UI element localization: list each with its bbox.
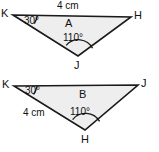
triangle-b-region-label: B [79,89,86,100]
triangle-a-vertex-label-k: K [1,8,8,19]
triangle-a-side-label-kh: 4 cm [57,1,79,11]
triangle-b-side-label-kh: 4 cm [23,108,45,118]
triangle-b-vertex-label-j: J [141,78,147,89]
triangle-a-vertex-label-j: J [74,60,80,71]
triangle-a-vertex-label-h: H [134,10,142,21]
triangle-b-angle-label-h: 110° [70,107,90,117]
triangle-b-angle-label-k: 30° [25,86,40,96]
triangle-b-vertex-label-h: H [81,134,89,145]
triangle-a-angle-label-k: 30° [24,16,39,26]
triangle-a-region-label: A [65,18,72,29]
geometry-figure: K H J 30° 110° 4 cm A K J H 30° 110° 4 c… [0,0,159,152]
triangle-a-angle-label-j: 110° [63,33,83,43]
triangle-b-vertex-label-k: K [2,79,9,90]
